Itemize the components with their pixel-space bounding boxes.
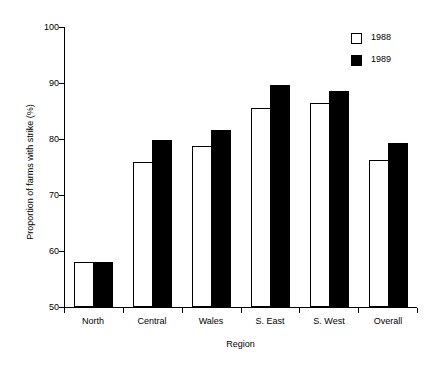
bar-north-1989: [93, 262, 113, 307]
y-tick-label: 70: [37, 191, 59, 200]
legend-label-1989: 1989: [371, 54, 391, 65]
x-tick-label: Overall: [374, 316, 403, 327]
bar-overall-1988: [369, 160, 389, 307]
legend-swatch-1989: [351, 55, 362, 66]
y-axis-title: Proportion of farms with strike (%): [25, 72, 35, 272]
y-tick-mark: [59, 27, 64, 28]
x-axis-title: Region: [64, 339, 417, 349]
x-tick-mark: [358, 308, 359, 313]
y-tick-mark: [59, 195, 64, 196]
bar-s-east-1988: [251, 108, 271, 307]
y-tick-mark: [59, 83, 64, 84]
bar-s-west-1989: [329, 91, 349, 307]
x-tick-mark: [417, 308, 418, 313]
x-tick-label: Central: [137, 316, 166, 327]
bar-s-west-1988: [310, 103, 330, 307]
y-axis-line: [64, 27, 65, 308]
x-tick-label: S. East: [255, 316, 284, 327]
y-tick-label: 100: [37, 23, 59, 32]
bar-wales-1988: [192, 146, 212, 307]
legend-swatch-1988: [351, 33, 362, 44]
bar-central-1989: [152, 140, 172, 307]
y-tick-mark: [59, 139, 64, 140]
y-tick-label: 80: [37, 135, 59, 144]
bar-wales-1989: [211, 130, 231, 307]
x-tick-label: S. West: [313, 316, 344, 327]
legend-label-1988: 1988: [371, 32, 391, 43]
x-tick-mark: [241, 308, 242, 313]
bar-north-1988: [74, 262, 94, 307]
bar-s-east-1989: [270, 85, 290, 307]
x-tick-label: North: [82, 316, 104, 327]
x-tick-mark: [299, 308, 300, 313]
bar-chart-figure: 5060708090100 Proportion of farms with s…: [0, 0, 444, 365]
y-tick-label: 90: [37, 79, 59, 88]
y-tick-label: 50: [37, 303, 59, 312]
bar-central-1988: [133, 162, 153, 307]
x-tick-mark: [182, 308, 183, 313]
y-tick-mark: [59, 251, 64, 252]
bar-overall-1989: [388, 143, 408, 307]
x-tick-mark: [123, 308, 124, 313]
x-tick-label: Wales: [199, 316, 224, 327]
y-tick-label: 60: [37, 247, 59, 256]
x-tick-mark: [64, 308, 65, 313]
